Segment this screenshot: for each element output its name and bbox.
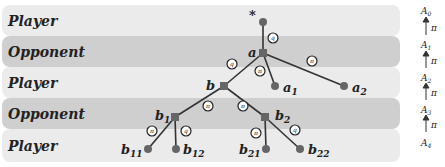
svg-text:a2: a2 (352, 80, 367, 97)
node-a (259, 49, 267, 57)
node-b1 (171, 113, 179, 121)
node-b12 (172, 145, 180, 153)
svg-text:b22: b22 (308, 142, 330, 159)
svg-text:π: π (430, 23, 438, 33)
svg-text:b21: b21 (239, 142, 261, 159)
svg-text:a1: a1 (283, 80, 298, 97)
node-label-root: * (249, 8, 256, 23)
svg-text:b2: b2 (275, 108, 290, 125)
node-b (220, 82, 228, 90)
node-a2 (340, 82, 348, 90)
edge-label: q (230, 60, 234, 68)
abstraction-axis: A0 A1 A2 A3 A4 π π π π (420, 6, 438, 149)
svg-text:b11: b11 (121, 142, 143, 159)
svg-text:A2: A2 (420, 73, 432, 84)
node-a1 (271, 82, 279, 90)
svg-text:π: π (430, 56, 438, 66)
node-b2 (261, 113, 269, 121)
svg-text:b1: b1 (155, 108, 170, 125)
svg-text:π: π (430, 88, 438, 98)
svg-text:A3: A3 (420, 105, 432, 116)
node-b21 (262, 145, 270, 153)
edge-label: q (184, 127, 188, 135)
svg-text:A1: A1 (420, 40, 431, 51)
node-label-b: b (206, 78, 215, 93)
svg-text:π: π (430, 120, 438, 130)
node-label-a: a (248, 45, 256, 60)
svg-text:b12: b12 (183, 142, 205, 159)
svg-text:A0: A0 (420, 6, 432, 17)
tree-svg: q q π π π π π q π q * a a1 a2 b b1 b2 b1… (0, 0, 445, 167)
node-b11 (144, 145, 152, 153)
edge-label: q (271, 34, 275, 42)
edge-label: q (293, 126, 297, 134)
node-b22 (296, 145, 304, 153)
svg-text:A4: A4 (420, 138, 432, 149)
game-tree-diagram: Player Opponent Player Opponent Player (0, 0, 445, 167)
node-root (259, 18, 267, 26)
